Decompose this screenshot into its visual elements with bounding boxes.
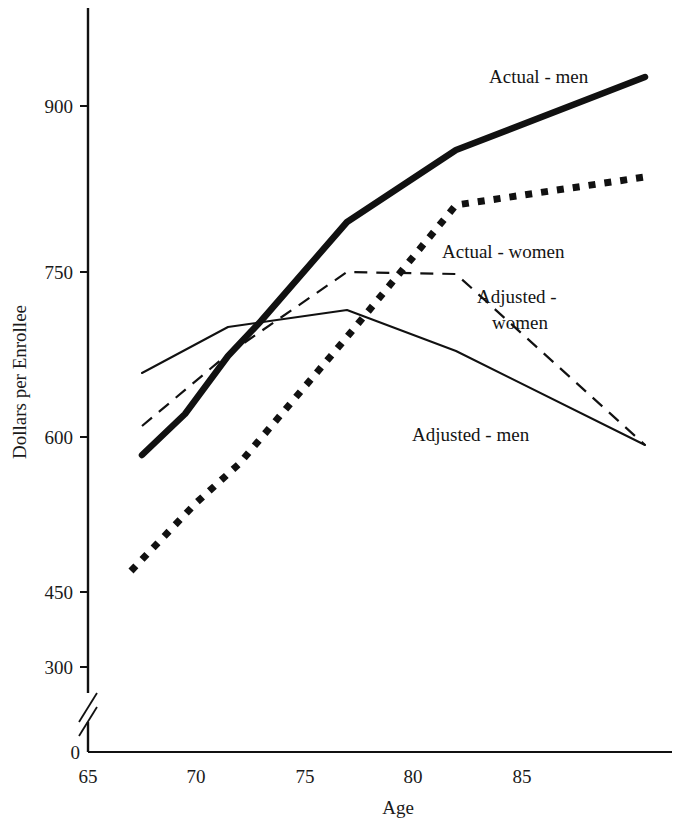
x-tick-labels: 65 70 75 80 85 [79, 766, 532, 787]
y-tick-label-750: 750 [45, 262, 74, 283]
series-line-adjusted-women [142, 272, 645, 445]
y-tick-label-450: 450 [45, 582, 74, 603]
y-axis-title: Dollars per Enrollee [9, 305, 30, 459]
x-tick-label-85: 85 [513, 766, 532, 787]
line-chart-canvas: 900 750 600 450 300 0 65 70 75 80 85 Age… [0, 0, 681, 833]
x-tick-label-70: 70 [187, 766, 206, 787]
x-tick-label-75: 75 [296, 766, 315, 787]
series-label-actual-women: Actual - women [442, 241, 565, 262]
series-label-adjusted-women-line1: Adjusted - [477, 286, 557, 307]
series-label-adjusted-men: Adjusted - men [412, 424, 530, 445]
x-tick-label-80: 80 [404, 766, 423, 787]
series-label-adjusted-women-line2: women [492, 312, 548, 333]
series-label-actual-men: Actual - men [489, 66, 589, 87]
y-tick-label-300: 300 [45, 657, 74, 678]
axes-group [79, 8, 672, 752]
x-axis-title: Age [382, 797, 414, 818]
chart-figure: 900 750 600 450 300 0 65 70 75 80 85 Age… [0, 0, 681, 833]
y-tick-label-600: 600 [45, 427, 74, 448]
y-tick-labels: 900 750 600 450 300 0 [45, 96, 81, 763]
y-tick-label-900: 900 [45, 96, 74, 117]
series-line-actual-men [142, 77, 645, 455]
series-line-adjusted-men [142, 310, 645, 445]
y-tick-label-0: 0 [71, 742, 81, 763]
x-tick-label-65: 65 [79, 766, 98, 787]
y-axis-break-slash-upper [79, 693, 97, 722]
